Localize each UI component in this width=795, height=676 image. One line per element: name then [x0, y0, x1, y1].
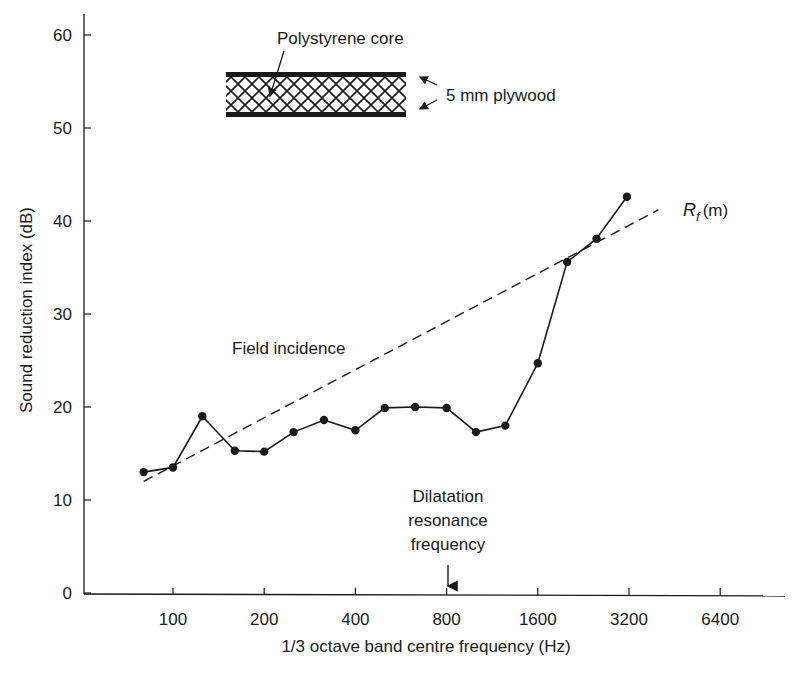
- dilatation-label-line3: frequency: [411, 535, 486, 554]
- data-point: [411, 403, 419, 411]
- x-tick-label: 3200: [610, 610, 648, 629]
- x-axis-title: 1/3 octave band centre frequency (Hz): [281, 637, 570, 656]
- plywood-top-skin: [226, 72, 406, 77]
- data-point: [320, 416, 328, 424]
- y-tick-label: 0: [63, 584, 72, 603]
- x-tick-label: 200: [250, 610, 278, 629]
- data-point: [472, 428, 480, 436]
- x-tick-label: 1600: [519, 610, 557, 629]
- dilatation-annotation: Dilatation resonance frequency: [408, 487, 487, 586]
- data-point: [442, 404, 450, 412]
- data-point: [139, 468, 147, 476]
- y-axis-ticks: 0102030405060: [53, 26, 91, 603]
- data-point: [381, 404, 389, 412]
- data-point: [260, 447, 268, 455]
- field-incidence-label: Field incidence: [232, 339, 345, 358]
- dilatation-label-line2: resonance: [408, 511, 487, 530]
- y-tick-label: 60: [53, 26, 72, 45]
- y-tick-label: 10: [53, 491, 72, 510]
- data-point: [231, 447, 239, 455]
- y-tick-label: 50: [53, 119, 72, 138]
- plywood-bottom-skin: [226, 112, 406, 117]
- core-label: Polystyrene core: [277, 29, 404, 48]
- data-point: [169, 463, 177, 471]
- y-tick-label: 40: [53, 212, 72, 231]
- data-point: [501, 421, 509, 429]
- x-axis: [84, 594, 785, 596]
- x-tick-label: 400: [341, 610, 369, 629]
- x-tick-label: 100: [159, 610, 187, 629]
- data-point: [289, 428, 297, 436]
- sandwich-panel-inset: Polystyrene core 5 mm plywood: [226, 29, 556, 117]
- polystyrene-core: [226, 76, 406, 114]
- data-point: [198, 412, 206, 420]
- y-tick-label: 20: [53, 398, 72, 417]
- x-tick-label: 800: [432, 610, 460, 629]
- measured-series-points: [139, 193, 631, 477]
- y-axis-title: Sound reduction index (dB): [17, 207, 36, 413]
- y-tick-label: 30: [53, 305, 72, 324]
- dilatation-label-line1: Dilatation: [413, 487, 484, 506]
- sound-reduction-chart: 0102030405060 100200400800160032006400 1…: [0, 0, 795, 676]
- data-point: [534, 359, 542, 367]
- measured-series-line: [144, 197, 627, 472]
- data-point: [563, 258, 571, 266]
- x-tick-label: 6400: [701, 610, 739, 629]
- skin-pointer-bottom-icon: [420, 100, 437, 109]
- data-point: [592, 234, 600, 242]
- skin-pointer-top-icon: [420, 77, 437, 85]
- rf-label: Rf(m): [683, 200, 728, 224]
- data-point: [623, 193, 631, 201]
- data-point: [351, 426, 359, 434]
- skin-label: 5 mm plywood: [446, 86, 556, 105]
